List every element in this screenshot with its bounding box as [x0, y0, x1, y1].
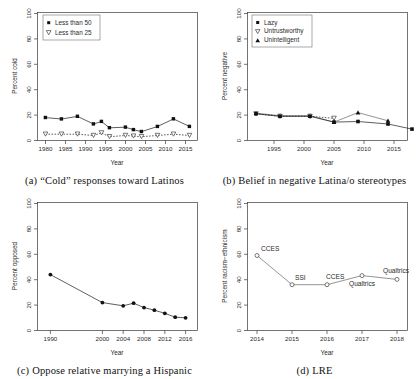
- panel-c-y-axis-title: Percent opposed: [11, 241, 19, 290]
- panel-d-caption-text: LRE: [312, 365, 332, 376]
- panel-c-xtick-2012: 2012: [158, 335, 172, 342]
- panel-a-legend-label-less-than-25: Less than 25: [55, 29, 92, 36]
- panel-d-caption: (d)LRE: [210, 365, 419, 376]
- panel-d-xtick-2017: 2017: [355, 335, 369, 342]
- panel-c: 0 20 40 60 80 100 Percent opposed 1990 2…: [0, 190, 209, 379]
- panel-a-xtick-2000: 2000: [119, 145, 133, 152]
- panel-b-ytick-40: 40: [235, 86, 242, 93]
- panel-c-ytick-80: 80: [25, 225, 32, 232]
- panel-a-ytick-0: 0: [25, 138, 32, 142]
- panel-b-caption-text: Belief in negative Latina/o stereotypes: [238, 175, 406, 186]
- panel-c-xtick-2004: 2004: [116, 335, 130, 342]
- panel-a-series-less-than-50-line: [46, 116, 190, 131]
- panel-b-xtick-2010: 2010: [357, 145, 371, 152]
- panel-d-series-markers: [255, 254, 399, 287]
- panel-d-y-axis: 0 20 40 60 80 100: [235, 198, 248, 332]
- panel-c-series-markers: [49, 273, 188, 320]
- figure-panel-grid: 0 20 40 60 80 100 Percent cold 1980: [0, 0, 419, 379]
- panel-a-legend-marker-less-than-50: [47, 21, 50, 24]
- panel-d-x-axis-title: Year: [321, 349, 335, 356]
- panel-a-x-axis-title: Year: [111, 159, 125, 166]
- panel-b-legend-label-unintelligent: Unintelligent: [264, 36, 299, 44]
- panel-a-y-axis-title: Percent cold: [11, 58, 18, 94]
- panel-b-y-axis: 0 20 40 60 80 100: [235, 8, 248, 142]
- panel-c-xtick-2008: 2008: [137, 335, 151, 342]
- panel-b-ytick-20: 20: [235, 111, 242, 118]
- panel-d-ytick-60: 60: [235, 250, 242, 257]
- panel-b-x-axis-title: Year: [321, 159, 335, 166]
- panel-c-y-axis: 0 20 40 60 80 100: [25, 198, 38, 332]
- panel-c-caption: (c)Oppose relative marrying a Hispanic: [0, 365, 209, 376]
- panel-c-xtick-2000: 2000: [96, 335, 110, 342]
- panel-c-x-axis: 1990 2000 2004 2008 2012 2016: [44, 331, 194, 343]
- panel-b-xtick-1995: 1995: [267, 145, 281, 152]
- panel-d-ytick-100: 100: [235, 198, 242, 209]
- panel-c-xtick-2016: 2016: [179, 335, 193, 342]
- panel-c-plot-frame: [38, 203, 198, 331]
- panel-b-ytick-0: 0: [235, 138, 242, 142]
- panel-b-plot: 0 20 40 60 80 100 Percent negative 1995 …: [210, 0, 419, 172]
- panel-c-caption-label: (c): [17, 365, 29, 376]
- panel-a-legend-label-less-than-50: Less than 50: [55, 19, 92, 26]
- panel-c-ytick-60: 60: [25, 250, 32, 257]
- panel-b-ytick-100: 100: [235, 8, 242, 19]
- panel-c-xtick-1990: 1990: [44, 335, 58, 342]
- panel-d-ytick-0: 0: [235, 328, 242, 332]
- panel-a-legend: Less than 50 Less than 25: [43, 15, 100, 40]
- panel-b-legend-label-lazy: Lazy: [264, 19, 278, 27]
- panel-a-series-less-than-50-markers: [44, 115, 191, 134]
- panel-b-ytick-80: 80: [235, 35, 242, 42]
- panel-d-point-label-3: Qualtrics: [349, 280, 376, 288]
- panel-d-plot: 0 20 40 60 80 100 Percent racism−ethnici…: [210, 190, 419, 362]
- panel-d-x-axis: 2014 2015 2016 2017 2018: [250, 331, 404, 343]
- panel-d-xtick-2015: 2015: [285, 335, 299, 342]
- panel-d-point-label-4: Qualtrics: [383, 267, 410, 275]
- panel-a-ytick-20: 20: [25, 111, 32, 118]
- panel-a-ytick-40: 40: [25, 86, 32, 93]
- panel-c-x-axis-title: Year: [111, 349, 125, 356]
- panel-a-ytick-60: 60: [25, 60, 32, 67]
- panel-a-xtick-2015: 2015: [179, 145, 193, 152]
- panel-a: 0 20 40 60 80 100 Percent cold 1980: [0, 0, 209, 189]
- panel-a-xtick-2010: 2010: [159, 145, 173, 152]
- panel-c-ytick-100: 100: [25, 198, 32, 209]
- panel-a-x-axis: 1980 1985 1990 1995 2000 2005 2010 2015: [39, 141, 193, 153]
- panel-c-ytick-20: 20: [25, 301, 32, 308]
- panel-a-plot: 0 20 40 60 80 100 Percent cold 1980: [0, 0, 209, 172]
- panel-a-xtick-1980: 1980: [39, 145, 53, 152]
- panel-d: 0 20 40 60 80 100 Percent racism−ethnici…: [210, 190, 419, 379]
- panel-b-xtick-2005: 2005: [327, 145, 341, 152]
- panel-b-y-axis-title: Percent negative: [221, 52, 229, 100]
- panel-a-y-axis: 0 20 40 60 80 100: [25, 8, 38, 142]
- panel-a-xtick-1995: 1995: [99, 145, 113, 152]
- panel-d-xtick-2014: 2014: [250, 335, 264, 342]
- panel-a-caption-label: (a): [25, 175, 37, 186]
- panel-b: 0 20 40 60 80 100 Percent negative 1995 …: [210, 0, 419, 189]
- panel-a-caption: (a)“Cold” responses toward Latinos: [0, 175, 209, 186]
- panel-b-xtick-2015: 2015: [387, 145, 401, 152]
- panel-c-series-line: [50, 275, 185, 318]
- panel-b-xtick-2000: 2000: [297, 145, 311, 152]
- panel-d-xtick-2016: 2016: [320, 335, 334, 342]
- panel-d-point-label-1: SSI: [295, 274, 306, 281]
- panel-d-point-labels: CCES SSI CCES Qualtrics Qualtrics: [261, 245, 410, 288]
- panel-d-point-label-2: CCES: [326, 273, 345, 280]
- panel-c-plot: 0 20 40 60 80 100 Percent opposed 1990 2…: [0, 190, 209, 362]
- panel-c-ytick-40: 40: [25, 276, 32, 283]
- panel-c-ytick-0: 0: [25, 328, 32, 332]
- panel-a-xtick-1990: 1990: [79, 145, 93, 152]
- panel-a-caption-text: “Cold” responses toward Latinos: [40, 175, 184, 186]
- panel-b-legend-marker-lazy: [256, 21, 259, 24]
- panel-d-ytick-80: 80: [235, 225, 242, 232]
- panel-a-series-less-than-25-line: [46, 133, 190, 137]
- panel-a-xtick-1985: 1985: [59, 145, 73, 152]
- panel-a-ytick-80: 80: [25, 35, 32, 42]
- panel-b-x-axis: 1995 2000 2005 2010 2015: [267, 141, 401, 153]
- panel-a-ytick-100: 100: [25, 8, 32, 19]
- panel-b-caption: (b)Belief in negative Latina/o stereotyp…: [210, 175, 419, 186]
- panel-d-xtick-2018: 2018: [390, 335, 404, 342]
- panel-d-ytick-20: 20: [235, 301, 242, 308]
- panel-d-ytick-40: 40: [235, 276, 242, 283]
- panel-b-legend: Lazy Untrustworthy Unintelligent: [252, 15, 312, 47]
- panel-c-caption-text: Oppose relative marrying a Hispanic: [32, 365, 192, 376]
